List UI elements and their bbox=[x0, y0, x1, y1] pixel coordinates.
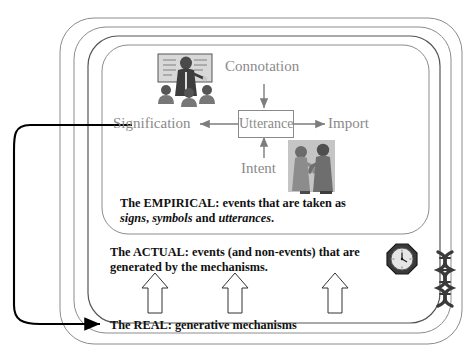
real-layer-text: The REAL: generative mechanisms bbox=[110, 318, 297, 333]
actual-layer-text: The ACTUAL: events (and non-events) that… bbox=[110, 245, 360, 274]
generative-arrow-3 bbox=[322, 273, 348, 313]
empirical-period: . bbox=[271, 211, 274, 225]
generative-arrow-1 bbox=[142, 273, 168, 313]
connotation-label: Connotation bbox=[225, 58, 299, 75]
signification-to-real-feedback-arrow bbox=[14, 125, 132, 324]
utterance-label: Utterance bbox=[239, 116, 293, 131]
octagonal-clock-icon bbox=[387, 244, 417, 274]
utterance-node[interactable]: Utterance bbox=[238, 110, 294, 138]
empirical-layer-text: The EMPIRICAL: events that are taken as … bbox=[120, 196, 346, 225]
diagram-canvas: Utterance Connotation Intent Significati… bbox=[0, 0, 476, 354]
diagram-vector-layer bbox=[0, 0, 476, 354]
empirical-line-2: signs, symbols and utterances. bbox=[120, 211, 346, 226]
intent-label: Intent bbox=[241, 160, 276, 177]
empirical-term-utterances: utterances bbox=[218, 211, 271, 225]
actual-boundary bbox=[88, 36, 440, 323]
generative-arrow-2 bbox=[222, 273, 248, 313]
actual-line-1: The ACTUAL: events (and non-events) that… bbox=[110, 245, 360, 260]
classroom-teacher-icon bbox=[158, 54, 215, 107]
two-people-conversing-icon bbox=[288, 140, 335, 194]
empirical-sep-2: and bbox=[192, 211, 218, 225]
signification-label: Signification bbox=[113, 115, 191, 132]
empirical-term-symbols: symbols bbox=[152, 211, 192, 225]
empirical-line-1: The EMPIRICAL: events that are taken as bbox=[120, 196, 346, 211]
import-label: Import bbox=[328, 115, 369, 132]
actual-line-2: generated by the mechanisms. bbox=[110, 260, 360, 275]
empirical-term-signs: signs bbox=[120, 211, 146, 225]
